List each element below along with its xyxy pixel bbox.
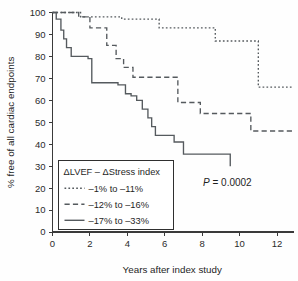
annotation-group: P = 0.0002 [203, 177, 252, 188]
series-line-dashed [53, 13, 293, 132]
legend-entry-label: –12% to –16% [89, 200, 149, 210]
y-tick-label: 0 [40, 226, 45, 237]
legend-title: ΔLVEF – ΔStress index [64, 167, 161, 177]
y-tick-label: 70 [35, 73, 46, 84]
y-tick-label: 100 [30, 7, 46, 18]
chart-figure: 0102030405060708090100024681012 ΔLVEF – … [0, 0, 298, 281]
legend-group: ΔLVEF – ΔStress index–1% to –11%–12% to … [59, 161, 174, 230]
y-tick-label: 60 [35, 95, 46, 106]
pvalue-annotation: P = 0.0002 [203, 177, 252, 188]
x-axis-title: Years after index study [123, 264, 222, 275]
y-tick-label: 50 [35, 117, 46, 128]
y-tick-label: 90 [35, 29, 46, 40]
x-tick-label: 6 [162, 238, 167, 249]
x-tick-label: 4 [125, 238, 130, 249]
x-tick-label: 2 [87, 238, 92, 249]
y-tick-label: 80 [35, 51, 46, 62]
series-group [53, 13, 293, 167]
series-line-solid [53, 13, 231, 167]
x-tick-label: 0 [50, 238, 55, 249]
series-line-dotted [53, 13, 293, 88]
x-tick-label: 8 [200, 238, 205, 249]
y-tick-label: 20 [35, 183, 46, 194]
x-tick-label: 10 [234, 238, 245, 249]
chart-svg: 0102030405060708090100024681012 ΔLVEF – … [0, 0, 298, 281]
legend-entry-label: –1% to –11% [89, 184, 144, 194]
legend-entry-label: –17% to –33% [89, 216, 149, 226]
y-tick-label: 40 [35, 139, 46, 150]
y-tick-label: 10 [35, 204, 46, 215]
y-tick-label: 30 [35, 161, 46, 172]
y-axis-title: % free of all cardiac endpoints [5, 57, 16, 188]
pvalue-number: = 0.0002 [210, 177, 252, 188]
x-tick-label: 12 [272, 238, 283, 249]
